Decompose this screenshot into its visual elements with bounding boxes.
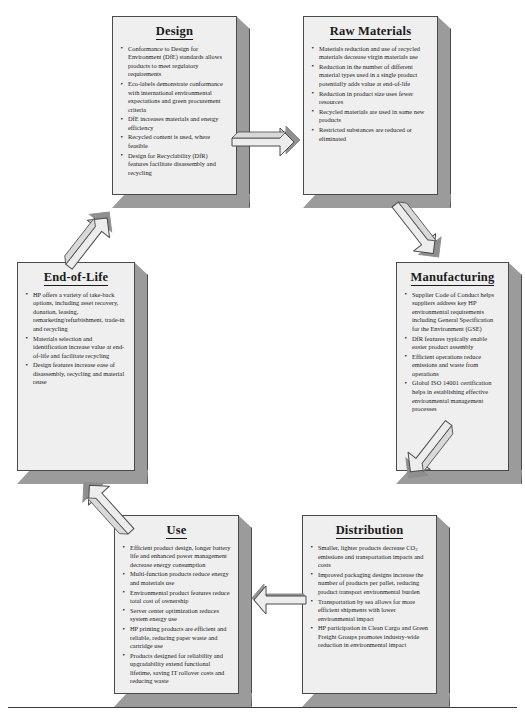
bullet-item: Transportation by sea allows for more ef…	[310, 598, 429, 624]
bullet-item: Multi-function products reduce energy an…	[122, 570, 231, 587]
bullet-item: Recycled materials are used in some new …	[311, 108, 430, 125]
stage-title-raw-materials: Raw Materials	[311, 25, 430, 39]
arrow-end-of-life-to-design	[48, 190, 148, 290]
bullet-item: Materials reduction and use of recycled …	[311, 45, 430, 62]
box-side-shadow	[437, 16, 451, 208]
bullet-item: Improved packaging designs increase the …	[310, 571, 429, 597]
bullet-item: Server center optimization reduces syste…	[122, 607, 231, 624]
stage-bullets-end-of-life: HP offers a variety of take-back options…	[25, 291, 127, 387]
bullet-item: DfE increases materials and energy effic…	[120, 115, 229, 132]
box-side-shadow	[508, 262, 522, 484]
bullet-item: Design features increase ease of disasse…	[25, 361, 127, 387]
bullet-item: Design for Recyclability (DfR) features …	[120, 152, 229, 178]
stage-box-manufacturing: Manufacturing Supplier Code of Conduct h…	[396, 262, 522, 484]
box-side-shadow	[238, 515, 252, 707]
box-bottom-shadow	[302, 693, 450, 707]
stage-title-design: Design	[120, 25, 229, 39]
bullet-item: HP printing products are efficient and r…	[122, 625, 231, 651]
bullet-item: Products designed for reliability and up…	[122, 652, 231, 686]
box-face: Raw Materials Materials reduction and us…	[303, 16, 438, 195]
bullet-item: Restricted substances are reduced or eli…	[311, 126, 430, 143]
bullet-item: Supplier Code of Conduct helps suppliers…	[404, 291, 501, 334]
product-lifecycle-diagram: Design Conformance to Design for Environ…	[0, 0, 525, 724]
box-face: Manufacturing Supplier Code of Conduct h…	[396, 262, 509, 471]
box-bottom-shadow	[114, 693, 252, 707]
bullet-item: Smaller, lighter products decrease CO2 e…	[310, 544, 429, 570]
bullet-item: HP offers a variety of take-back options…	[25, 291, 127, 334]
stage-bullets-manufacturing: Supplier Code of Conduct helps suppliers…	[404, 291, 501, 414]
bullet-item: Efficient operations reduce emissions an…	[404, 353, 501, 379]
stage-box-design: Design Conformance to Design for Environ…	[112, 16, 250, 208]
bullet-item: Materials selection and identification i…	[25, 335, 127, 361]
footer-divider	[8, 707, 517, 708]
box-face: End-of-Life HP offers a variety of take-…	[17, 262, 135, 471]
bullet-item: Reduction in product size uses fewer res…	[311, 90, 430, 107]
bullet-item: Recycled content is used, where feasible	[120, 133, 229, 150]
box-face: Design Conformance to Design for Environ…	[112, 16, 237, 195]
stage-bullets-distribution: Smaller, lighter products decrease CO2 e…	[310, 544, 429, 650]
stage-title-distribution: Distribution	[310, 524, 429, 538]
stage-bullets-design: Conformance to Design for Environment (D…	[120, 45, 229, 177]
arrow-use-to-end-of-life	[52, 456, 152, 556]
stage-box-end-of-life: End-of-Life HP offers a variety of take-…	[17, 262, 148, 484]
stage-bullets-use: Efficient product design, longer battery…	[122, 544, 231, 686]
stage-bullets-raw-materials: Materials reduction and use of recycled …	[311, 45, 430, 143]
bullet-item: Conformance to Design for Environment (D…	[120, 45, 229, 79]
arrow-manufacturing-to-distribution	[418, 470, 508, 550]
box-side-shadow	[134, 262, 148, 484]
bullet-item: HP participation in Clean Cargo and Gree…	[310, 624, 429, 650]
arrow-distribution-to-use	[252, 572, 312, 632]
arrow-design-to-raw-materials	[232, 100, 306, 160]
bullet-item: DfR features typically enable easier pro…	[404, 335, 501, 352]
arrow-raw-materials-to-manufacturing	[408, 196, 498, 276]
box-face: Distribution Smaller, lighter products d…	[302, 515, 437, 694]
bullet-item: Reduction in the number of different mat…	[311, 63, 430, 89]
bullet-item: Eco-labels demonstrate conformance with …	[120, 80, 229, 114]
bullet-item: Global ISO 14001 certification helps in …	[404, 379, 501, 413]
stage-box-raw-materials: Raw Materials Materials reduction and us…	[303, 16, 451, 208]
bullet-item: Environmental product features reduce to…	[122, 589, 231, 606]
